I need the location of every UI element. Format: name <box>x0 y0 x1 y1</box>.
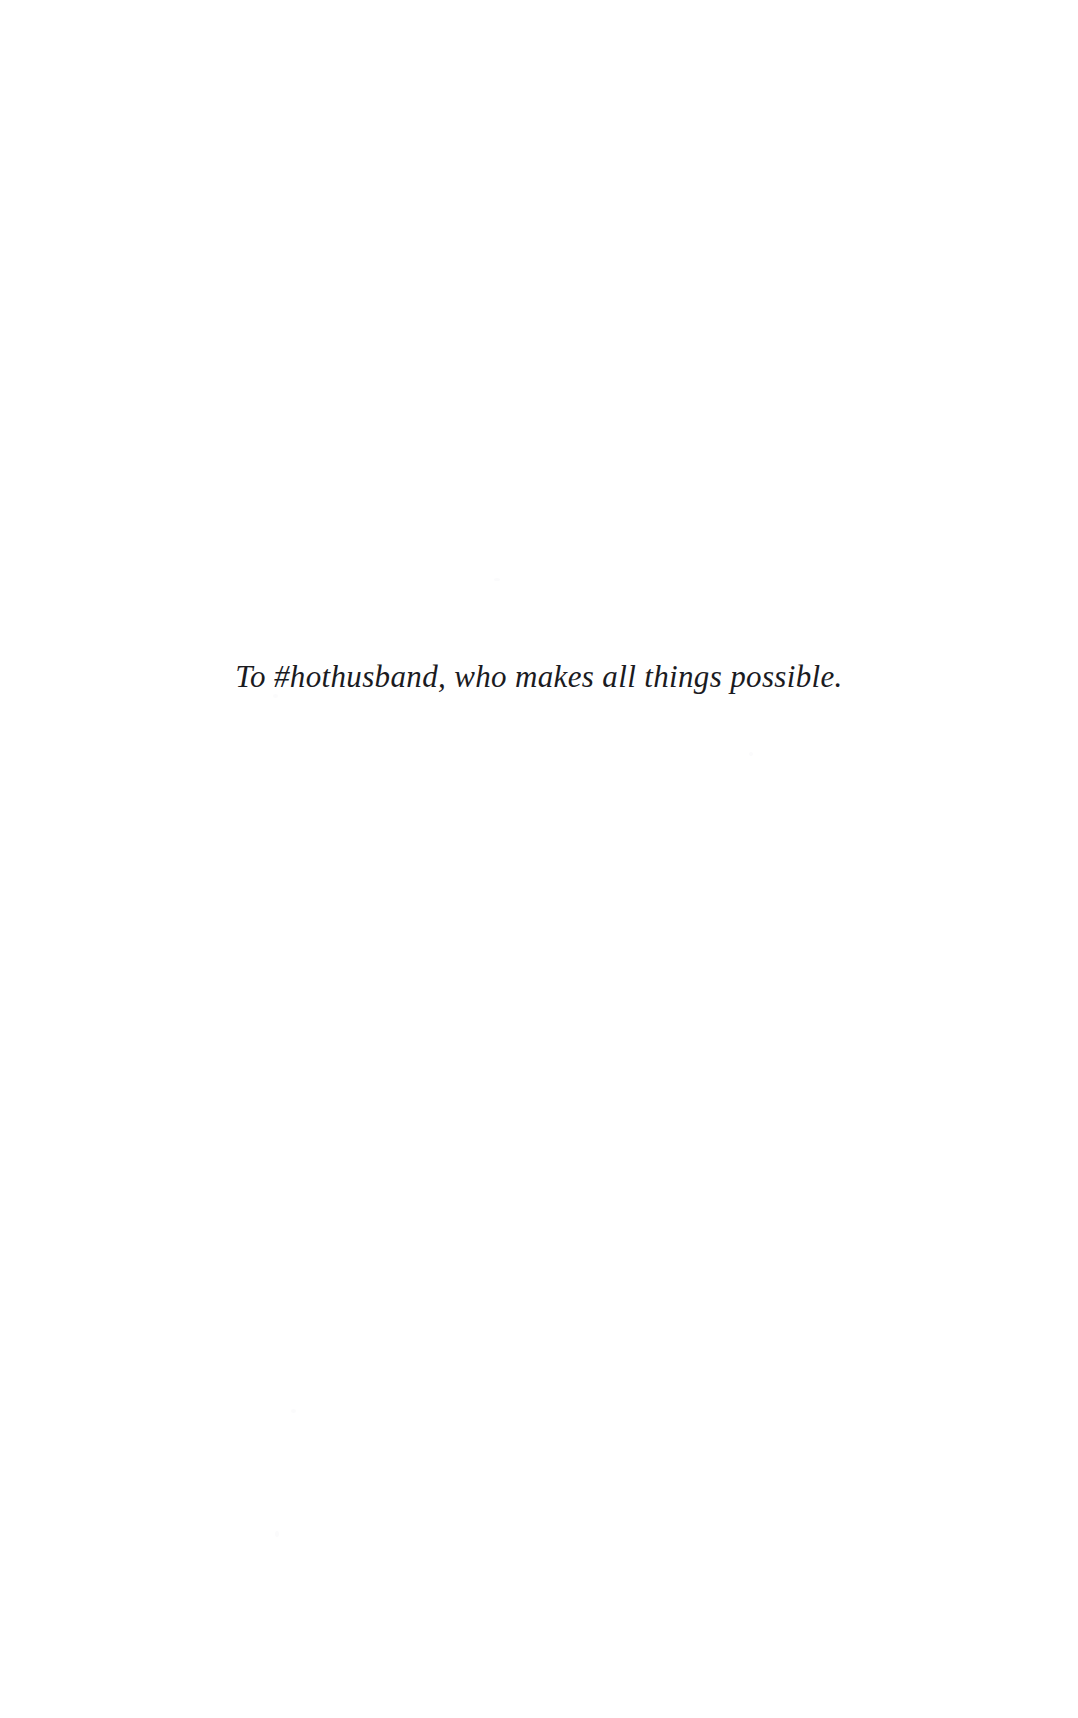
book-page: To #hothusband, who makes all things pos… <box>0 0 1078 1718</box>
dedication-block: To #hothusband, who makes all things pos… <box>0 0 1078 1718</box>
dedication-text: To #hothusband, who makes all things pos… <box>235 657 842 697</box>
